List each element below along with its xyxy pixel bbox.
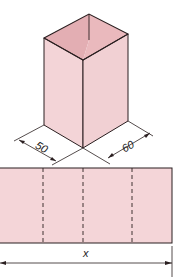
dim-depth-label: 60 [119,138,136,155]
diagram-canvas: 50 60 x [0,0,183,277]
dimension-length: x [0,246,172,277]
dim-length-label: x [82,247,89,259]
box [44,14,128,148]
dim-width-label: 50 [34,139,51,156]
net-strip-rect [0,168,172,243]
net-strip [0,168,172,243]
